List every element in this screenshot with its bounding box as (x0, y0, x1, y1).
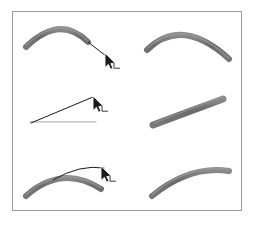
cursor-corner-mark-icon (110, 176, 116, 181)
panel-row2-left[interactable] (29, 96, 108, 124)
figure-root (0, 0, 254, 225)
cursor-corner-mark-icon (114, 63, 120, 68)
thick-stroke-arc[interactable] (26, 178, 101, 196)
thin-guide-line (88, 42, 106, 56)
thin-guide-line (31, 97, 93, 123)
panel-row1-right[interactable] (147, 34, 229, 59)
panel-row2-right[interactable] (153, 97, 223, 125)
thick-stroke-arc-result[interactable] (152, 170, 229, 196)
figure-canvas (0, 0, 254, 225)
thick-stroke-diagonal-bar-result-highlight (154, 97, 222, 123)
cursor-corner-mark-icon (102, 106, 108, 111)
panel-row1-left[interactable] (26, 28, 120, 69)
panel-row3-right[interactable] (152, 169, 229, 196)
thick-stroke-diagonal-bar-result[interactable] (153, 99, 223, 125)
panel-row3-left[interactable] (26, 166, 116, 196)
